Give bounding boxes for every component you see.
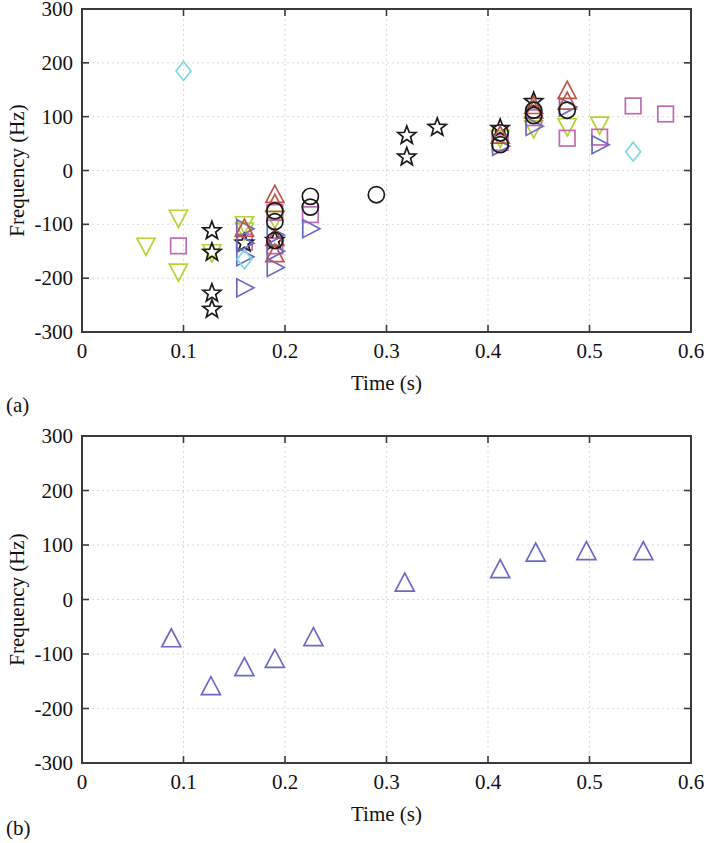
data-point-triangle-up	[201, 677, 220, 695]
data-point-triangle-up	[235, 658, 254, 676]
x-tick-label: 0.1	[170, 339, 196, 363]
data-point-square	[658, 106, 674, 122]
x-tick-label: 0	[77, 770, 88, 794]
x-tick-label: 0.3	[373, 770, 399, 794]
data-point-circle	[559, 102, 575, 118]
data-point-circle	[368, 187, 384, 203]
data-point-triangle-up	[526, 543, 545, 561]
x-axis-title: Time (s)	[351, 802, 422, 826]
y-tick-label: 100	[42, 533, 74, 557]
panel-a: 3002001000-100-200-30000.10.20.30.40.50.…	[0, 0, 707, 420]
data-points	[137, 61, 673, 317]
y-tick-label: -200	[35, 697, 74, 721]
y-tick-label: 200	[42, 479, 74, 503]
data-point-triangle-down	[169, 210, 187, 227]
data-point-triangle-up	[265, 649, 284, 667]
data-point-star	[398, 148, 416, 165]
y-tick-label: 300	[42, 0, 74, 21]
plot-a: 3002001000-100-200-30000.10.20.30.40.50.…	[0, 0, 707, 420]
data-point-triangle-up	[395, 573, 414, 591]
series-star-black	[203, 92, 543, 317]
axis-ticks: 3002001000-100-200-30000.10.20.30.40.50.…	[35, 424, 705, 794]
gridlines	[82, 9, 691, 332]
data-point-star	[428, 118, 446, 135]
y-tick-label: 200	[42, 51, 74, 75]
x-tick-label: 0.1	[170, 770, 196, 794]
data-point-triangle-up	[634, 542, 653, 560]
x-axis-title: Time (s)	[351, 371, 422, 395]
series-triangle-up-blue	[162, 542, 653, 695]
data-point-triangle-right	[237, 279, 254, 297]
data-point-star	[203, 221, 221, 238]
x-tick-label: 0.3	[373, 339, 399, 363]
panel-label: (b)	[6, 816, 31, 840]
x-tick-label: 0.4	[475, 339, 502, 363]
figure-container: 3002001000-100-200-30000.10.20.30.40.50.…	[0, 0, 707, 843]
x-tick-label: 0.6	[678, 339, 704, 363]
y-tick-label: 300	[42, 424, 74, 448]
data-point-star	[398, 126, 416, 143]
data-point-triangle-up	[162, 629, 181, 647]
gridlines	[82, 436, 691, 763]
x-tick-label: 0.6	[678, 770, 704, 794]
panel-b: 3002001000-100-200-30000.10.20.30.40.50.…	[0, 420, 707, 843]
data-point-square	[559, 130, 575, 146]
x-tick-label: 0	[77, 339, 88, 363]
series-circle-black	[267, 102, 575, 248]
x-tick-label: 0.2	[272, 770, 298, 794]
y-tick-label: -300	[35, 320, 74, 344]
x-tick-label: 0.4	[475, 770, 502, 794]
data-point-triangle-down	[169, 264, 187, 281]
y-axis-title: Frequency (Hz)	[5, 533, 29, 665]
x-tick-label: 0.2	[272, 339, 298, 363]
data-point-triangle-up	[558, 81, 576, 98]
data-point-diamond	[626, 142, 641, 161]
data-point-square	[625, 98, 641, 114]
x-tick-label: 0.5	[576, 770, 602, 794]
y-tick-label: 0	[63, 588, 74, 612]
y-tick-label: -300	[35, 751, 74, 775]
data-point-triangle-up	[577, 542, 596, 560]
y-tick-label: 0	[63, 159, 74, 183]
panel-label: (a)	[6, 393, 29, 417]
data-point-triangle-up	[304, 628, 323, 646]
data-point-triangle-down	[591, 117, 609, 134]
data-points	[162, 542, 653, 695]
data-point-triangle-down	[137, 238, 155, 255]
data-point-triangle-up	[491, 560, 510, 578]
y-tick-label: -100	[35, 212, 74, 236]
y-tick-label: -100	[35, 642, 74, 666]
y-tick-label: -200	[35, 266, 74, 290]
y-axis-title: Frequency (Hz)	[5, 104, 29, 236]
data-point-star	[203, 300, 221, 317]
plot-b: 3002001000-100-200-30000.10.20.30.40.50.…	[0, 420, 707, 843]
y-tick-label: 100	[42, 105, 74, 129]
axis-ticks: 3002001000-100-200-30000.10.20.30.40.50.…	[35, 0, 705, 363]
data-point-triangle-down	[558, 119, 576, 136]
x-tick-label: 0.5	[576, 339, 602, 363]
data-point-triangle-down	[203, 245, 221, 262]
series-triangle-right-blue	[237, 98, 609, 297]
